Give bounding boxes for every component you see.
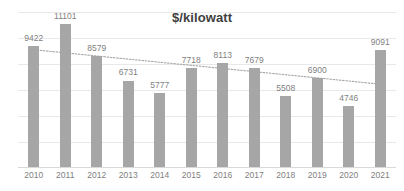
- bar[interactable]: [312, 78, 323, 168]
- data-label: 11101: [54, 11, 76, 21]
- x-tick-label: 2012: [87, 170, 106, 180]
- data-label: 9091: [371, 37, 390, 47]
- data-label: 6731: [119, 67, 138, 77]
- data-label: 4746: [339, 93, 358, 103]
- data-label: 9422: [24, 33, 43, 43]
- x-tick-label: 2020: [339, 170, 358, 180]
- data-label: 7718: [182, 55, 201, 65]
- bar[interactable]: [249, 68, 260, 168]
- gridline: [18, 38, 396, 39]
- x-tick-label: 2010: [24, 170, 43, 180]
- x-tick-label: 2013: [119, 170, 138, 180]
- data-label: 5508: [276, 83, 295, 93]
- x-tick-label: 2016: [213, 170, 232, 180]
- x-tick-label: 2015: [182, 170, 201, 180]
- x-axis-labels: 2010201120122013201420152016201720182019…: [18, 170, 396, 186]
- x-tick-label: 2011: [56, 170, 74, 180]
- x-axis-line: [18, 167, 396, 168]
- data-label: 5777: [150, 80, 169, 90]
- bar[interactable]: [60, 24, 71, 168]
- x-tick-label: 2019: [308, 170, 327, 180]
- chart-container: $/kilowatt 94221110185796731577777188113…: [0, 0, 404, 191]
- bar[interactable]: [217, 63, 228, 168]
- bar[interactable]: [154, 93, 165, 168]
- bar[interactable]: [28, 46, 39, 168]
- data-label: 8113: [214, 50, 232, 60]
- bar[interactable]: [280, 96, 291, 168]
- bar[interactable]: [91, 56, 102, 168]
- data-label: 7679: [245, 55, 264, 65]
- bar[interactable]: [343, 106, 354, 168]
- data-label: 6900: [308, 65, 327, 75]
- gridline: [18, 90, 396, 91]
- x-tick-label: 2021: [371, 170, 390, 180]
- gridline: [18, 142, 396, 143]
- gridline: [18, 116, 396, 117]
- bar[interactable]: [123, 81, 134, 169]
- x-tick-label: 2018: [276, 170, 295, 180]
- bar[interactable]: [186, 68, 197, 168]
- x-tick-label: 2017: [245, 170, 264, 180]
- bar[interactable]: [375, 50, 386, 168]
- plot-area: 9422111018579673157777718811376795508690…: [18, 12, 396, 168]
- gridline: [18, 64, 396, 65]
- data-label: 8579: [87, 43, 106, 53]
- x-tick-label: 2014: [150, 170, 169, 180]
